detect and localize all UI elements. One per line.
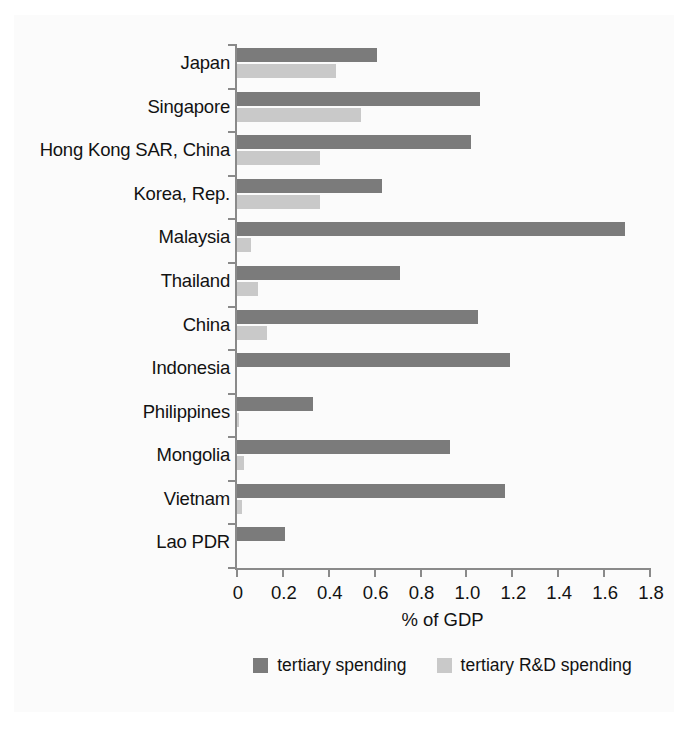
y-axis-tick [228, 523, 236, 525]
legend-item: tertiary R&D spending [437, 655, 632, 676]
x-axis-tick [557, 568, 559, 577]
y-axis-tick [228, 436, 236, 438]
x-axis-title: % of GDP [236, 609, 649, 631]
legend-item: tertiary spending [253, 655, 406, 676]
y-axis-tick [228, 262, 236, 264]
y-axis-tick [228, 175, 236, 177]
horizontal-bar-chart: JapanSingaporeHong Kong SAR, ChinaKorea,… [0, 0, 688, 739]
y-axis-tick [228, 349, 236, 351]
y-axis-tick [228, 131, 236, 133]
x-axis-tick [603, 568, 605, 577]
x-axis-tick [236, 568, 238, 577]
x-axis-tick-label: 1.8 [621, 582, 681, 604]
y-axis-tick [228, 480, 236, 482]
y-axis-tick [228, 44, 236, 46]
x-axis-tick [328, 568, 330, 577]
x-axis-tick [465, 568, 467, 577]
y-axis-tick [228, 88, 236, 90]
y-axis-tick [228, 393, 236, 395]
x-axis-tick [374, 568, 376, 577]
chart-page: JapanSingaporeHong Kong SAR, ChinaKorea,… [0, 0, 688, 739]
legend-label: tertiary spending [277, 655, 406, 676]
legend-swatch-icon [437, 658, 452, 673]
x-axis-tick [282, 568, 284, 577]
x-axis-tick [511, 568, 513, 577]
y-axis-tick [228, 306, 236, 308]
y-axis-tick [228, 567, 236, 569]
x-axis-tick [420, 568, 422, 577]
legend-label: tertiary R&D spending [461, 655, 632, 676]
y-axis-tick [228, 218, 236, 220]
chart-legend: tertiary spendingtertiary R&D spending [236, 655, 649, 676]
legend-swatch-icon [253, 658, 268, 673]
x-axis-tick [649, 568, 651, 577]
